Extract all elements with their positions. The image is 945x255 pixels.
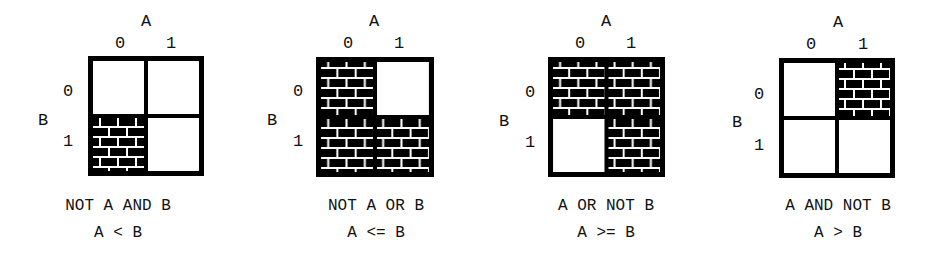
- axis-b-label: B: [732, 114, 742, 131]
- a-value-0: 0: [575, 35, 585, 52]
- truth-diagram-4: A 0 1 B 0 1 A AND NOT B A > B: [690, 0, 926, 255]
- axis-a-label: A: [601, 13, 611, 30]
- cell-a1-b1: [837, 118, 895, 178]
- cell-a0-b1: [779, 118, 837, 178]
- cell-a1-b0: [607, 57, 666, 117]
- a-value-0: 0: [115, 35, 125, 52]
- axis-a-label: A: [369, 13, 379, 30]
- axis-b-label: B: [267, 112, 277, 129]
- truth-grid: [316, 57, 434, 177]
- axis-a-label: A: [141, 13, 151, 30]
- b-value-1: 1: [63, 133, 73, 150]
- cell-a0-b1: [88, 116, 146, 176]
- cell-a1-b0: [837, 58, 895, 118]
- caption-relation: A > B: [720, 225, 945, 241]
- a-value-1: 1: [394, 35, 404, 52]
- cell-a0-b0: [88, 56, 146, 116]
- a-value-0: 0: [806, 36, 816, 53]
- caption-expression: NOT A AND B: [0, 198, 236, 214]
- b-value-0: 0: [525, 84, 535, 101]
- truth-grid: [88, 56, 204, 176]
- b-value-1: 1: [293, 133, 303, 150]
- b-value-1: 1: [754, 137, 764, 154]
- b-value-0: 0: [754, 86, 764, 103]
- b-value-1: 1: [525, 134, 535, 151]
- caption-expression: NOT A OR B: [258, 198, 494, 214]
- b-value-0: 0: [293, 83, 303, 100]
- cell-a1-b0: [146, 56, 204, 116]
- cell-a1-b1: [375, 117, 434, 177]
- caption-expression: A AND NOT B: [720, 198, 945, 214]
- cell-a1-b0: [375, 57, 434, 117]
- b-value-0: 0: [63, 83, 73, 100]
- a-value-0: 0: [343, 35, 353, 52]
- cell-a1-b1: [607, 117, 666, 177]
- grid-svg: [88, 56, 204, 176]
- cell-a0-b0: [548, 57, 607, 117]
- truth-diagram-3: A 0 1 B 0 1 A OR NOT B A >= B: [460, 0, 696, 255]
- axis-b-label: B: [499, 113, 509, 130]
- grid-svg: [316, 57, 434, 177]
- caption-relation: A < B: [0, 225, 236, 241]
- grid-svg: [779, 58, 895, 178]
- truth-grid: [779, 58, 895, 178]
- caption-relation: A >= B: [488, 225, 724, 241]
- truth-grid: [548, 57, 665, 177]
- truth-diagram-2: A 0 1 B 0 1 NOT A OR B A <= B: [228, 0, 464, 255]
- axis-b-label: B: [38, 112, 48, 129]
- cell-a1-b1: [146, 116, 204, 176]
- axis-a-label: A: [833, 14, 843, 31]
- caption-relation: A <= B: [258, 225, 494, 241]
- cell-a0-b0: [779, 58, 837, 118]
- a-value-1: 1: [166, 35, 176, 52]
- cell-a0-b0: [316, 57, 375, 117]
- caption-expression: A OR NOT B: [488, 198, 724, 214]
- a-value-1: 1: [626, 35, 636, 52]
- grid-svg: [548, 57, 665, 177]
- cell-a0-b1: [316, 117, 375, 177]
- truth-diagram-1: A 0 1 B 0 1 NOT A AND B A < B: [0, 0, 236, 255]
- a-value-1: 1: [858, 36, 868, 53]
- cell-a0-b1: [548, 117, 607, 177]
